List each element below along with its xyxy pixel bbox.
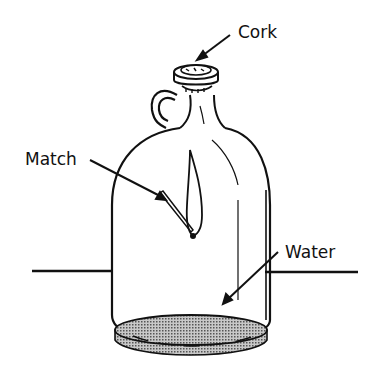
water-pool — [115, 315, 267, 355]
flame-icon — [187, 150, 202, 236]
cork-arrow — [197, 35, 230, 60]
match-label: Match — [25, 149, 77, 169]
jug-handle — [152, 91, 177, 128]
cork-label: Cork — [238, 22, 277, 42]
match-arrow — [90, 160, 166, 200]
surface-line — [32, 271, 358, 272]
jug-diagram — [0, 0, 375, 390]
cork-icon — [174, 65, 218, 93]
jug-body — [112, 95, 270, 342]
water-label: Water — [285, 242, 335, 262]
